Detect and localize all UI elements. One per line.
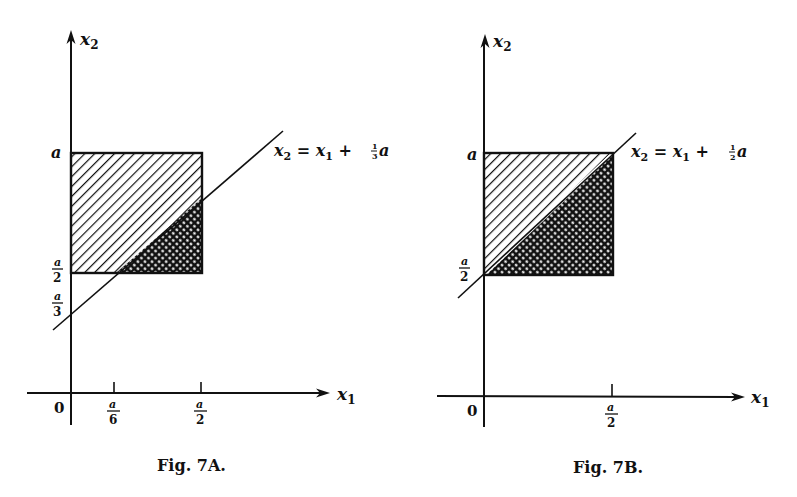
y-tick-label-a-third: a 3 [52,290,63,319]
svg-text:2: 2 [196,413,204,427]
svg-text:6: 6 [109,413,117,427]
svg-text:a: a [461,255,468,268]
svg-text:2: 2 [730,152,736,162]
svg-text:1: 1 [730,142,736,152]
origin-label: 0 [467,402,477,420]
svg-text:a: a [54,290,61,303]
svg-text:a: a [196,398,203,411]
svg-text:2: 2 [53,271,61,285]
diagram-canvas: x2 x1 0 a a 2 a 3 a 6 a 2 x2 = x1 [0,0,797,497]
y-tick-label-a: a [467,145,477,164]
figure-caption: Fig. 7B. [573,458,643,477]
figure-7b: x2 x1 0 a a 2 a 2 x2 = x1 + 1 2 a Fig. 7… [437,31,770,477]
svg-text:2: 2 [607,416,615,430]
svg-text:a: a [54,256,61,269]
y-tick-label-a-half: a 2 [459,255,470,284]
line-equation-label: x2 = x1 + 1 2 a [630,142,747,164]
svg-text:2: 2 [460,270,468,284]
svg-text:3: 3 [372,151,378,161]
svg-text:a: a [109,398,116,411]
figure-caption: Fig. 7A. [157,456,226,475]
x-tick-label-a-half: a 2 [194,398,207,427]
y-axis-label: x2 [79,29,99,52]
y-axis-label: x2 [492,31,512,54]
svg-text:x2 = x1 +: x2 = x1 + [630,142,709,164]
y-tick-label-a: a [51,143,61,162]
svg-text:a: a [607,401,614,414]
svg-text:1: 1 [372,141,378,151]
svg-text:3: 3 [53,305,61,319]
svg-text:a: a [737,142,747,161]
y-tick-label-a-half: a 2 [52,256,63,285]
line-equation-label: x2 = x1 + 1 3 a [273,141,389,163]
x-tick-label-a-half: a 2 [605,401,618,430]
figure-7a: x2 x1 0 a a 2 a 3 a 6 a 2 x2 = x1 [27,29,389,475]
x-tick-label-a-sixth: a 6 [107,398,120,427]
region-group-a [71,153,202,273]
x-axis [437,396,737,397]
x-axis-label: x1 [336,384,356,407]
svg-text:a: a [379,141,389,160]
svg-text:x2 = x1 +: x2 = x1 + [273,141,352,163]
origin-label: 0 [54,399,64,417]
x-axis-label: x1 [750,387,770,410]
